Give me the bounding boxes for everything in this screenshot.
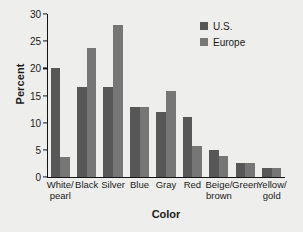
plot-area: 051015202530: [47, 14, 285, 177]
bar-chart: Percent 051015202530 White/ pearlBlackSi…: [0, 0, 303, 232]
bar-group: [259, 14, 285, 177]
bar-europe: [87, 48, 97, 177]
bar-europe: [192, 146, 202, 178]
x-axis-title: Color: [47, 208, 285, 220]
bar-europe: [60, 157, 70, 177]
bar-group: [153, 14, 179, 177]
bar-europe: [113, 25, 123, 177]
bar-us: [262, 168, 272, 177]
bar-us: [103, 87, 113, 177]
bar-us: [156, 112, 166, 177]
bar-series-container: [47, 14, 285, 177]
legend-swatch-icon: [200, 22, 208, 30]
legend-item: U.S.: [200, 19, 245, 33]
bar-europe: [272, 168, 282, 177]
bar-us: [183, 117, 193, 177]
x-axis-tick-labels: White/ pearlBlackSilverBlueGrayRedBeige/…: [47, 180, 285, 210]
bar-us: [209, 150, 219, 177]
bar-us: [130, 107, 140, 177]
bar-group: [47, 14, 73, 177]
bar-europe: [245, 163, 255, 177]
bar-us: [51, 68, 61, 177]
legend-item: Europe: [200, 35, 245, 49]
y-axis-title: Percent: [14, 44, 26, 124]
legend-label: U.S.: [213, 21, 232, 32]
bar-us: [77, 87, 87, 177]
bar-group: [73, 14, 99, 177]
bar-us: [236, 163, 246, 177]
legend-label: Europe: [213, 37, 245, 48]
bar-europe: [219, 156, 229, 177]
bar-europe: [166, 91, 176, 177]
bar-europe: [140, 107, 150, 177]
bar-group: [126, 14, 152, 177]
chart-legend: U.S.Europe: [200, 19, 245, 51]
x-axis-tick-label: Yellow/ gold: [249, 180, 294, 201]
bar-group: [100, 14, 126, 177]
legend-swatch-icon: [200, 38, 208, 46]
